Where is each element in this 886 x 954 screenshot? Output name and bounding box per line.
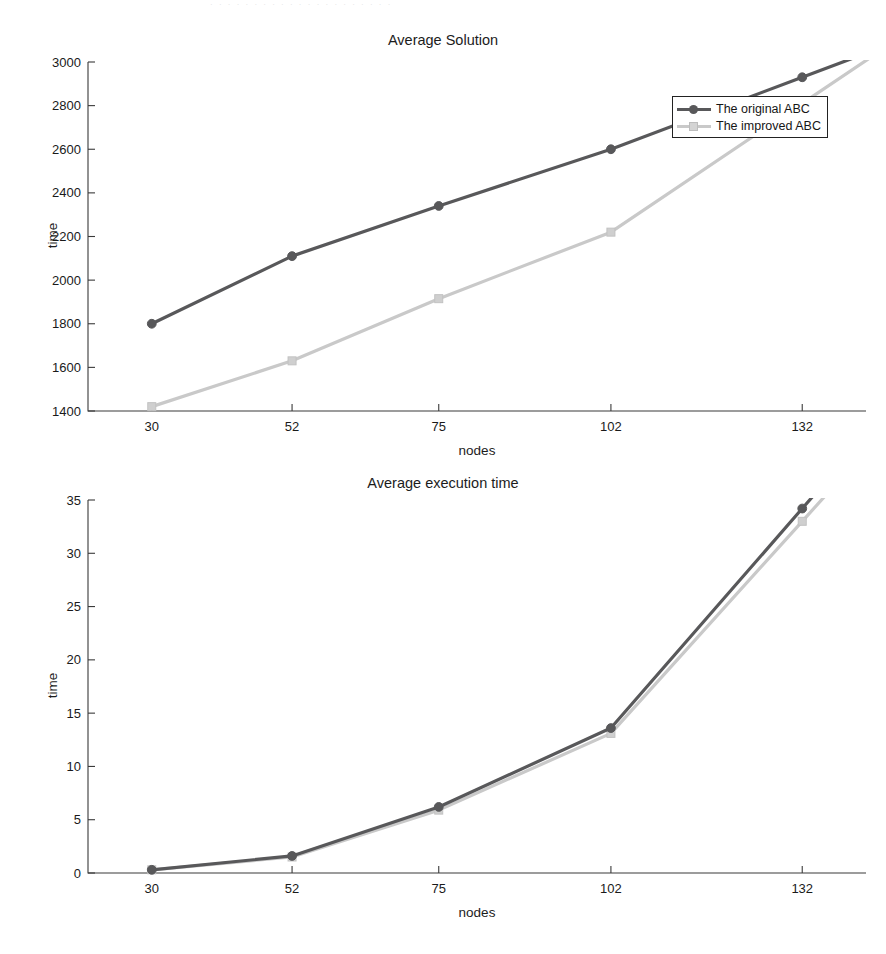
legend-line-circle-icon <box>677 102 711 116</box>
svg-text:3000: 3000 <box>52 55 81 70</box>
svg-text:75: 75 <box>432 419 446 434</box>
chart-1-legend: The original ABC The improved ABC <box>672 96 828 138</box>
chart-1-y-axis-label: time <box>45 205 60 265</box>
chart-2-y-axis-label: time <box>45 655 60 715</box>
legend-entry-improved: The improved ABC <box>677 117 821 134</box>
svg-text:15: 15 <box>67 706 81 721</box>
svg-text:35: 35 <box>67 493 81 508</box>
svg-text:30: 30 <box>67 546 81 561</box>
svg-text:102: 102 <box>600 419 622 434</box>
svg-text:2600: 2600 <box>52 142 81 157</box>
svg-text:2400: 2400 <box>52 185 81 200</box>
legend-line-square-icon <box>677 119 711 133</box>
chart-average-solution: Average Solution 14001600180020002200240… <box>0 26 886 466</box>
legend-label-original: The original ABC <box>716 102 810 116</box>
chart-1-plot: 1400160018002000220024002600280030003052… <box>0 26 886 466</box>
chart-average-execution-time: Average execution time 05101520253035305… <box>0 466 886 954</box>
svg-text:102: 102 <box>600 881 622 896</box>
svg-text:30: 30 <box>145 881 159 896</box>
svg-text:25: 25 <box>67 599 81 614</box>
svg-text:10: 10 <box>67 759 81 774</box>
figure-page: · · · · · · · · · · · · · · · · · · · · … <box>0 0 886 954</box>
svg-text:52: 52 <box>285 881 299 896</box>
svg-text:52: 52 <box>285 419 299 434</box>
legend-entry-original: The original ABC <box>677 100 821 117</box>
svg-text:2000: 2000 <box>52 273 81 288</box>
svg-text:0: 0 <box>74 866 81 881</box>
svg-text:132: 132 <box>791 881 813 896</box>
chart-2-plot: 05101520253035305275102132 <box>0 466 886 954</box>
svg-text:75: 75 <box>432 881 446 896</box>
svg-text:132: 132 <box>791 419 813 434</box>
chart-1-x-axis-label: nodes <box>88 443 866 458</box>
chart-2-x-axis-label: nodes <box>88 905 866 920</box>
svg-text:1600: 1600 <box>52 360 81 375</box>
legend-label-improved: The improved ABC <box>716 119 821 133</box>
svg-text:2800: 2800 <box>52 98 81 113</box>
svg-text:5: 5 <box>74 812 81 827</box>
svg-text:1400: 1400 <box>52 404 81 419</box>
svg-text:30: 30 <box>145 419 159 434</box>
svg-text:1800: 1800 <box>52 316 81 331</box>
scan-artifact-text: · · · · · · · · · · · · · · · · · · · · … <box>210 0 690 10</box>
svg-text:20: 20 <box>67 652 81 667</box>
